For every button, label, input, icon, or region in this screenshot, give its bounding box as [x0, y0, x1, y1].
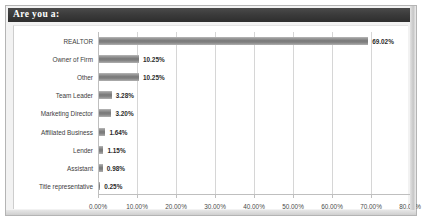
- category-label: Team Leader: [56, 92, 93, 99]
- panel-bottom-bevel: [6, 210, 416, 215]
- chart-row: Lender1.15%: [98, 141, 410, 159]
- bar-value-label: 0.98%: [107, 164, 125, 171]
- x-axis-tick-label: 40.00%: [243, 203, 265, 210]
- bar-value-label: 3.20%: [115, 110, 133, 117]
- chart-row: Other10.25%: [98, 68, 410, 86]
- x-axis-tick-label: 50.00%: [282, 203, 304, 210]
- chart-canvas: REALTOR69.02%Owner of Firm10.25%Other10.…: [13, 25, 408, 209]
- x-axis-tick-label: 10.00%: [126, 203, 148, 210]
- x-axis-tick-label: 20.00%: [165, 203, 187, 210]
- category-label: Affiliated Business: [41, 128, 93, 135]
- x-axis-tick-label: 60.00%: [321, 203, 343, 210]
- x-axis-tick-label: 80.00%: [399, 203, 421, 210]
- chart-row: Team Leader3.28%: [98, 86, 410, 104]
- gridline: [410, 32, 411, 195]
- tick-mark: [137, 195, 138, 198]
- category-label: Other: [77, 74, 93, 81]
- chart-row: Marketing Director3.20%: [98, 104, 410, 122]
- plot-area: REALTOR69.02%Owner of Firm10.25%Other10.…: [98, 32, 410, 195]
- bar[interactable]: [99, 128, 105, 136]
- bar[interactable]: [99, 91, 112, 99]
- chart-row: REALTOR69.02%: [98, 32, 410, 50]
- chart-panel: Are you a: REALTOR69.02%Owner of Firm10.…: [5, 5, 417, 216]
- bar[interactable]: [99, 146, 103, 154]
- chart-row: Owner of Firm10.25%: [98, 50, 410, 68]
- tick-mark: [410, 195, 411, 198]
- bar-value-label: 0.25%: [104, 182, 122, 189]
- tick-mark: [293, 195, 294, 198]
- category-label: Title representative: [39, 182, 93, 189]
- bar-value-label: 10.25%: [143, 56, 165, 63]
- bar-value-label: 10.25%: [143, 74, 165, 81]
- tick-mark: [98, 195, 99, 198]
- bar[interactable]: [99, 109, 111, 117]
- bar[interactable]: [99, 55, 139, 63]
- x-axis-tick-label: 70.00%: [360, 203, 382, 210]
- tick-mark: [371, 195, 372, 198]
- category-label: REALTOR: [63, 38, 93, 45]
- tick-mark: [332, 195, 333, 198]
- bar-value-label: 3.28%: [116, 92, 134, 99]
- bar-value-label: 1.15%: [107, 146, 125, 153]
- tick-mark: [215, 195, 216, 198]
- x-axis-tick-label: 30.00%: [204, 203, 226, 210]
- bar[interactable]: [99, 182, 100, 190]
- category-label: Owner of Firm: [53, 56, 93, 63]
- bar[interactable]: [99, 164, 103, 172]
- x-axis-tick-label: 0.00%: [89, 203, 107, 210]
- bar-value-label: 1.64%: [109, 128, 127, 135]
- bar-value-label: 69.02%: [372, 38, 394, 45]
- category-label: Assistant: [67, 164, 93, 171]
- bar[interactable]: [99, 37, 368, 45]
- chart-row: Affiliated Business1.64%: [98, 123, 410, 141]
- bar[interactable]: [99, 73, 139, 81]
- tick-mark: [176, 195, 177, 198]
- panel-title: Are you a:: [13, 9, 60, 19]
- tick-mark: [254, 195, 255, 198]
- category-label: Marketing Director: [41, 110, 93, 117]
- chart-row: Assistant0.98%: [98, 159, 410, 177]
- chart-row: Title representative0.25%: [98, 177, 410, 195]
- category-label: Lender: [73, 146, 93, 153]
- panel-title-bar: Are you a:: [8, 8, 412, 22]
